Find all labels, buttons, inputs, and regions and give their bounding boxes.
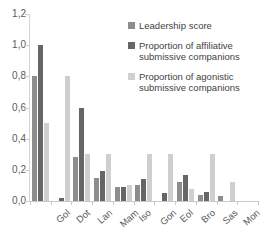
x-axis-label-eol: Eol [178,207,196,224]
x-tick-mark [134,201,135,205]
x-axis-label-sas: Sas [220,207,240,226]
y-axis: 1,21,00,80,60,40,20,0 [0,14,26,200]
bar-chart: 1,21,00,80,60,40,20,0 Leadership scorePr… [0,0,263,246]
legend-label: Proportion of agonistic submissive compa… [139,71,260,93]
y-tick-label: 0,2 [0,165,26,175]
bar [183,175,188,201]
y-tick-mark [25,14,29,15]
bar [218,196,223,201]
bar-group [71,14,92,201]
bar [32,76,37,201]
x-tick-mark [258,201,259,205]
bar [147,154,152,201]
bar [73,157,78,201]
bar [115,187,120,201]
bar [106,154,111,201]
bar [162,193,167,201]
legend-swatch-icon [128,73,135,80]
x-tick-mark [154,201,155,205]
y-tick-label: 1,2 [0,9,26,19]
y-tick-mark [25,170,29,171]
bar [100,171,105,201]
bar [79,108,84,202]
x-tick-mark [196,201,197,205]
bar [141,179,146,201]
bar [189,189,194,201]
bar [38,45,43,201]
bar [94,178,99,201]
legend-item[interactable]: Proportion of affiliative submissive com… [128,40,260,62]
y-tick-mark [25,108,29,109]
chart-legend: Leadership scoreProportion of affiliativ… [128,20,260,102]
x-tick-mark [113,201,114,205]
bar [65,76,70,201]
y-tick-mark [25,45,29,46]
y-tick-label: 1,0 [0,40,26,50]
bar-group [92,14,113,201]
x-tick-mark [92,201,93,205]
y-tick-label: 0,6 [0,103,26,113]
x-axis-label-mon: Mon [241,207,262,228]
y-tick-label: 0,4 [0,134,26,144]
x-tick-mark [175,201,176,205]
bar-group [30,14,51,201]
bar [127,185,132,201]
legend-item[interactable]: Leadership score [128,20,260,31]
y-tick-mark [25,76,29,77]
x-tick-mark [71,201,72,205]
bar [85,154,90,201]
bar [44,123,49,201]
legend-label: Proportion of affiliative submissive com… [139,40,260,62]
x-tick-mark [217,201,218,205]
x-axis-line [29,201,258,202]
x-tick-mark [237,201,238,205]
bar [198,195,203,201]
y-tick-mark [25,139,29,140]
legend-swatch-icon [128,42,135,49]
x-axis-label-dot: Dot [74,207,92,225]
legend-label: Leadership score [139,20,212,31]
x-tick-mark [30,201,31,205]
legend-item[interactable]: Proportion of agonistic submissive compa… [128,71,260,93]
x-axis-label-gon: Gon [158,207,179,227]
x-axis-label-mam: Mam [117,207,140,229]
legend-swatch-icon [128,22,135,29]
bar-group [51,14,72,201]
bar [135,185,140,201]
x-tick-mark [51,201,52,205]
x-axis-label-mag: Mag [262,207,263,228]
x-axis-label-bro: Bro [199,207,217,225]
bar [210,154,215,201]
x-axis-label-iso: Iso [136,207,153,224]
x-axis-label-lan: Lan [95,207,114,226]
x-axis-label-gol: Gol [53,207,71,225]
y-tick-label: 0,0 [0,196,26,206]
y-tick-mark [25,201,29,202]
bar [168,154,173,201]
bar [204,192,209,201]
bar [177,182,182,201]
bar [59,198,64,201]
bar [230,182,235,201]
y-tick-label: 0,8 [0,71,26,81]
bar [121,187,126,201]
